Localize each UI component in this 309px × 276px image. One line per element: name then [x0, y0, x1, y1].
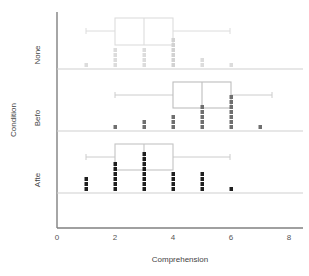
x-tick-label-6: 6 — [229, 233, 234, 242]
x-tick-label-4: 4 — [171, 233, 176, 242]
x-tick-label-0: 0 — [55, 233, 60, 242]
x-tick-label-2: 2 — [113, 233, 118, 242]
y-cat-label-none: None — [33, 45, 42, 65]
y-axis-title: Condition — [9, 103, 18, 137]
x-axis-title: Comprehension — [152, 255, 208, 264]
chart-svg: 0 2 4 6 8 Comprehension None Befo Afte C… — [0, 0, 309, 276]
y-cat-label-before: Befo — [33, 109, 42, 126]
y-cat-label-after: Afte — [33, 172, 42, 187]
x-tick-label-8: 8 — [287, 233, 292, 242]
boxplot-chart: 0 2 4 6 8 Comprehension None Befo Afte C… — [0, 0, 309, 276]
